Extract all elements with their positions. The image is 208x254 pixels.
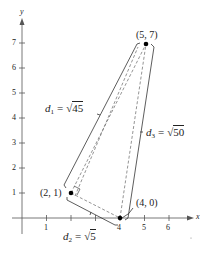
y-axis-label: y — [20, 8, 24, 16]
x-axis-label: x — [196, 213, 200, 221]
point-4-0 — [118, 216, 123, 221]
x-tick-1: 1 — [44, 224, 48, 232]
d2-radicand: 5 — [90, 229, 96, 242]
distance-label-d1: d1=√45 — [45, 103, 83, 116]
y-tick-1: 1 — [12, 189, 16, 197]
x-axis-arrow-icon — [187, 216, 194, 221]
x-tick-6: 6 — [166, 224, 170, 232]
y-tick-6: 6 — [12, 64, 16, 72]
y-tick-7: 7 — [12, 39, 16, 47]
point-2-1 — [69, 191, 74, 196]
point-5-7 — [144, 42, 149, 47]
y-tick-5: 5 — [12, 89, 16, 97]
distance-label-d2: d2=√5 — [63, 231, 96, 244]
d3-radicand: 50 — [173, 125, 184, 138]
distance-label-d3: d3=√50 — [146, 127, 184, 140]
triangle-dashed — [71, 44, 146, 218]
d3-equals: = — [158, 126, 164, 138]
y-axis-arrow-icon — [20, 18, 25, 25]
distance-triangle-diagram: y x 1 4 5 6 1 2 3 4 5 6 7 (2, 1) (4, 0) … — [0, 0, 208, 254]
point-label-2-1: (2, 1) — [40, 188, 62, 198]
y-tick-3: 3 — [12, 139, 16, 147]
point-label-4-0: (4, 0) — [136, 198, 158, 208]
y-tick-4: 4 — [12, 114, 16, 122]
d1-radicand: 45 — [72, 101, 83, 114]
d3-subscript: 3 — [152, 132, 156, 140]
d1-subscript: 1 — [51, 108, 55, 116]
d2-subscript: 2 — [69, 236, 73, 244]
y-tick-2: 2 — [12, 164, 16, 172]
x-tick-4: 4 — [117, 224, 121, 232]
points — [69, 42, 149, 221]
point-label-leader — [122, 208, 133, 218]
point-label-5-7: (5, 7) — [136, 30, 158, 40]
brace-d2 — [67, 197, 118, 225]
d1-equals: = — [57, 102, 63, 114]
x-tick-5: 5 — [142, 224, 146, 232]
d2-equals: = — [75, 230, 81, 242]
